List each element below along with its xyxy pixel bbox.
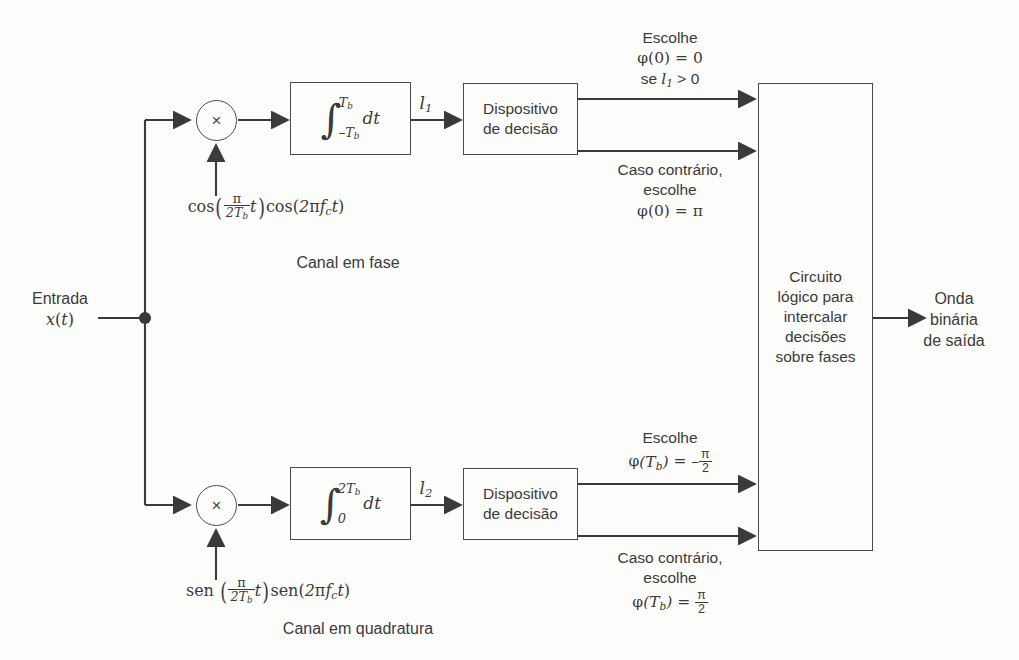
input-label: Entrada x(t): [22, 288, 98, 330]
input-label-line1: Entrada: [22, 288, 98, 309]
upper-integrator-block[interactable]: ∫Tb–Tbdt: [290, 82, 411, 155]
upper-integral-lower-limit: –Tb: [339, 126, 360, 142]
lower-integral-differential: dt: [363, 495, 381, 512]
lower-decision-top-annotation: Escolhe φ(Tb) = –π2: [585, 428, 755, 475]
lower-decision-line1: Dispositivo: [483, 484, 558, 504]
upper-decision-top-annotation: Escolhe φ(0) = 0 se l1 > 0: [585, 28, 755, 91]
multiplier-symbol: ×: [212, 111, 222, 131]
upper-annotation-bottom-line2: escolhe: [585, 180, 755, 200]
lower-annotation-bottom-line3: φ(Tb) = π2: [585, 589, 755, 616]
lower-integral-expression: ∫2Tb0dt: [320, 482, 381, 525]
lower-multiplier[interactable]: ×: [196, 485, 237, 526]
upper-decision-line1: Dispositivo: [483, 99, 558, 119]
junction-dot: [139, 312, 151, 324]
output-label-line3: de saída: [900, 330, 1008, 351]
upper-integral-expression: ∫Tb–Tbdt: [321, 96, 380, 142]
output-label: Onda binária de saída: [900, 288, 1008, 351]
upper-annotation-top-line1: Escolhe: [585, 28, 755, 48]
upper-local-carrier-expression: cos(π2Tbt)cos(2πfct): [136, 192, 396, 225]
logic-block-line2: lógico para: [759, 287, 872, 307]
upper-multiplier[interactable]: ×: [196, 100, 237, 141]
input-label-line2: x(t): [22, 309, 98, 330]
logic-block-line1: Circuito: [759, 267, 872, 287]
lower-signal-label: l2: [406, 477, 446, 501]
lower-annotation-bottom-line2: escolhe: [585, 568, 755, 588]
in-phase-channel-caption: Canal em fase: [278, 252, 418, 273]
upper-signal-label: l1: [406, 92, 446, 116]
upper-annotation-top-line3: se l1 > 0: [585, 69, 755, 91]
upper-integral-differential: dt: [362, 110, 380, 127]
quadrature-channel-caption: Canal em quadratura: [258, 618, 458, 639]
upper-decision-device[interactable]: Dispositivo de decisão: [463, 83, 578, 155]
output-label-line1: Onda: [900, 288, 1008, 309]
logic-block-line4: decisões: [759, 327, 872, 347]
block-diagram-canvas: Entrada x(t) × ∫Tb–Tbdt l1 Dispositivo d…: [0, 0, 1019, 660]
lower-integrator-block[interactable]: ∫2Tb0dt: [290, 467, 411, 540]
multiplier-symbol: ×: [212, 496, 222, 516]
lower-decision-device[interactable]: Dispositivo de decisão: [463, 468, 578, 540]
upper-annotation-bottom-line3: φ(0) = π: [585, 201, 755, 221]
upper-decision-line2: de decisão: [483, 119, 558, 139]
upper-decision-bottom-annotation: Caso contrário, escolhe φ(0) = π: [585, 160, 755, 221]
lower-integral-upper-limit: 2Tb: [338, 482, 361, 498]
lower-integral-lower-limit: 0: [338, 512, 361, 526]
lower-decision-bottom-annotation: Caso contrário, escolhe φ(Tb) = π2: [585, 548, 755, 616]
lower-annotation-top-line1: Escolhe: [585, 428, 755, 448]
logic-block-line3: intercalar: [759, 307, 872, 327]
lower-annotation-bottom-line1: Caso contrário,: [585, 548, 755, 568]
logic-block-line5: sobre fases: [759, 347, 872, 367]
lower-annotation-top-line2: φ(Tb) = –π2: [585, 448, 755, 475]
upper-annotation-bottom-line1: Caso contrário,: [585, 160, 755, 180]
upper-annotation-top-line2: φ(0) = 0: [585, 48, 755, 68]
lower-decision-line2: de decisão: [483, 504, 558, 524]
logic-circuit-block[interactable]: Circuito lógico para intercalar decisões…: [758, 83, 873, 551]
lower-local-carrier-expression: sen (π2Tbt)sen(2πfct): [128, 576, 408, 609]
upper-integral-upper-limit: Tb: [339, 96, 360, 112]
output-label-line2: binária: [900, 309, 1008, 330]
